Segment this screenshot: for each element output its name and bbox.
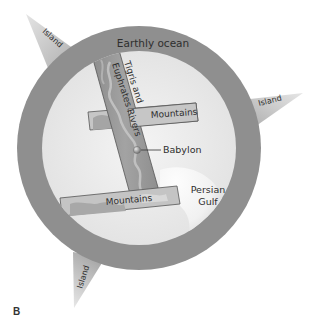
persian-gulf-label-line1: Persian: [191, 184, 226, 195]
ocean-label: Earthly ocean: [117, 37, 189, 49]
babylon-label: Babylon: [163, 144, 201, 155]
world-map-diagram: Earthly ocean Tigris and Euphrates River…: [0, 0, 312, 324]
figure-label: B: [13, 306, 20, 317]
persian-gulf-label-line2: Gulf: [198, 196, 218, 207]
city-dot-icon: [133, 146, 140, 153]
